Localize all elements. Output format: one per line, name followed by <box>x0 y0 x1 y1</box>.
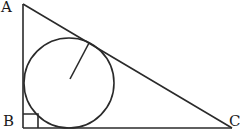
geometry-diagram: A B C <box>0 0 242 134</box>
vertex-label-b: B <box>3 112 14 130</box>
vertex-label-c: C <box>229 112 240 130</box>
vertex-label-a: A <box>0 0 12 16</box>
side-ac <box>23 4 232 128</box>
radius-segment <box>70 43 89 79</box>
right-angle-marker <box>23 114 38 128</box>
